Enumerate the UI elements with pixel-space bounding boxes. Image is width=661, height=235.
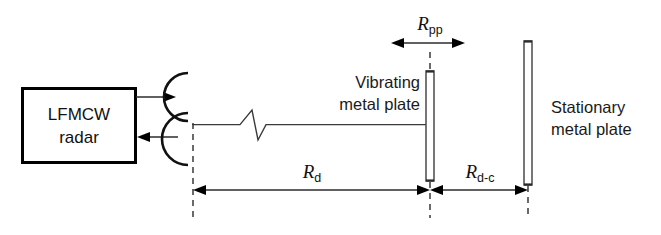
rdc-subscript: d-c xyxy=(477,171,494,185)
stationary-plate-annotation: Stationary metal plate xyxy=(551,98,632,138)
radar-label-line2: radar xyxy=(59,128,99,147)
rdc-label: Rd-c xyxy=(465,161,495,185)
vibrating-plate-label-line2: metal plate xyxy=(339,95,420,113)
vibrating-metal-plate xyxy=(426,71,434,181)
transmit-path xyxy=(136,92,176,102)
rdc-arrow-left-icon xyxy=(430,185,443,195)
stationary-plate-label-line2: metal plate xyxy=(551,120,632,138)
stationary-metal-plate xyxy=(524,41,532,185)
radar-vibration-diagram: LFMCW radar xyxy=(0,0,661,235)
radar-label-line1: LFMCW xyxy=(48,105,110,124)
rd-arrow-right-icon xyxy=(417,185,430,195)
rpp-subscript: pp xyxy=(429,23,443,37)
rd-label: Rd xyxy=(302,161,322,185)
vibrating-plate-annotation: Vibrating metal plate xyxy=(339,73,420,113)
vibrating-plate-label-line1: Vibrating xyxy=(355,73,420,91)
radar-box xyxy=(23,89,136,163)
vibrating-plate-body xyxy=(426,71,434,181)
rpp-arrow-right-icon xyxy=(452,38,465,48)
rpp-arrow-left-icon xyxy=(391,38,404,48)
receive-arrow-icon xyxy=(137,132,150,142)
stationary-plate-body xyxy=(524,41,532,185)
rpp-label: Rpp xyxy=(416,13,443,37)
diagram-canvas: LFMCW radar xyxy=(0,0,661,235)
lfmcw-radar-block: LFMCW radar xyxy=(23,89,136,163)
rdc-arrow-right-icon xyxy=(515,185,528,195)
receive-path xyxy=(137,132,178,142)
rd-arrow-left-icon xyxy=(193,185,206,195)
antenna-group xyxy=(162,73,188,165)
propagation-path xyxy=(193,110,426,140)
rd-subscript: d xyxy=(314,171,321,185)
dimension-rd: Rd xyxy=(193,161,430,195)
propagation-line-with-break xyxy=(193,110,426,140)
dimension-rpp: Rpp xyxy=(391,13,465,48)
dimension-rdc: Rd-c xyxy=(430,161,528,195)
stationary-plate-label-line1: Stationary xyxy=(551,98,626,116)
